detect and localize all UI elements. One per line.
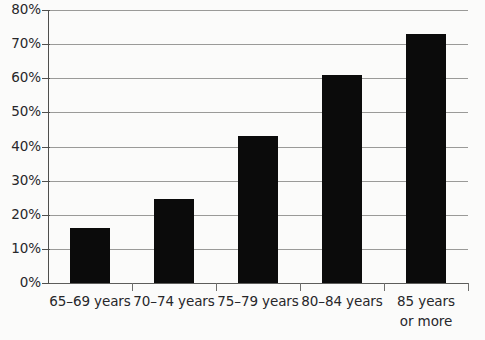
bar-2 [154, 199, 194, 283]
bar-1 [70, 228, 110, 283]
plot-area [48, 10, 468, 283]
y-axis-label-40: 40% [0, 140, 41, 154]
y-axis-label-80: 80% [0, 3, 41, 17]
y-axis-label-20: 20% [0, 208, 41, 222]
y-axis-label-10: 10% [0, 242, 41, 256]
bar-3 [238, 136, 278, 283]
y-axis-label-30: 30% [0, 174, 41, 188]
y-axis-label-60: 60% [0, 72, 41, 86]
x-axis-label-5: 85 years or more [384, 292, 468, 331]
y-axis-label-70: 70% [0, 37, 41, 51]
x-axis-label-1: 65–69 years [48, 292, 132, 312]
bar-5 [406, 34, 446, 283]
y-axis-tick-80 [42, 10, 50, 11]
y-axis-tick-30 [42, 181, 50, 182]
gridline-60 [48, 78, 468, 79]
x-axis-label-4: 80–84 years [300, 292, 384, 312]
y-axis-label-0: 0% [0, 276, 41, 290]
y-axis-tick-20 [42, 215, 50, 216]
x-axis-label-2: 70–74 years [132, 292, 216, 312]
bar-chart: 0%10%20%30%40%50%60%70%80% 65–69 years70… [0, 0, 485, 340]
y-axis-tick-70 [42, 44, 50, 45]
bar-4 [322, 75, 362, 283]
gridline-70 [48, 44, 468, 45]
x-axis-tick-3 [300, 283, 301, 291]
y-axis-tick-60 [42, 78, 50, 79]
x-axis-label-3: 75–79 years [216, 292, 300, 312]
x-axis-tick-4 [384, 283, 385, 291]
x-axis-tick-2 [216, 283, 217, 291]
y-axis-label-50: 50% [0, 106, 41, 120]
y-axis-tick-10 [42, 249, 50, 250]
y-axis-tick-label-group: 0%10%20%30%40%50%60%70%80% [0, 10, 41, 283]
y-axis [48, 10, 49, 284]
y-axis-tick-40 [42, 147, 50, 148]
x-axis-category-label-group: 65–69 years70–74 years75–79 years80–84 y… [48, 292, 468, 338]
gridline-50 [48, 112, 468, 113]
x-axis-tick-1 [132, 283, 133, 291]
x-axis-tick-end [468, 283, 469, 291]
gridline-80 [48, 10, 468, 11]
y-axis-tick-50 [42, 112, 50, 113]
